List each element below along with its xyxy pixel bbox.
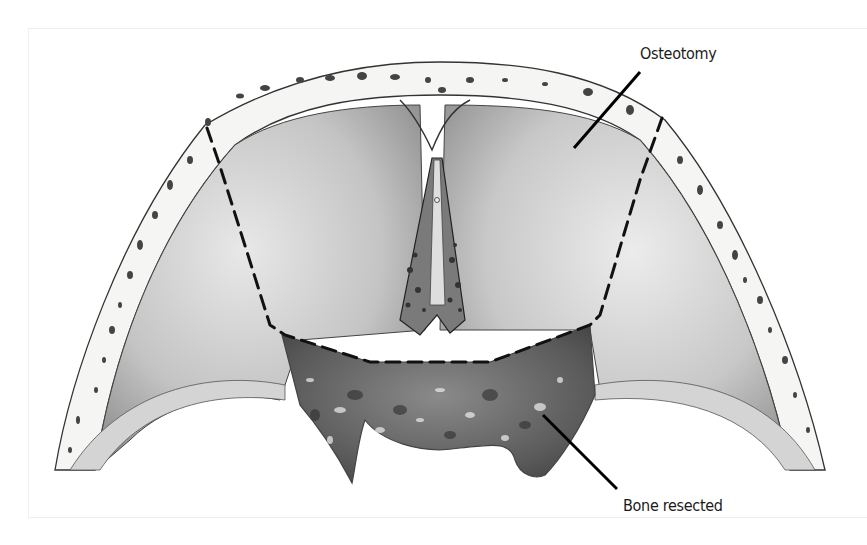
osteotomy-label: Osteotomy: [640, 44, 716, 63]
skull-base-illustration: [0, 0, 867, 545]
bone-resected-label: Bone resected: [623, 496, 723, 515]
